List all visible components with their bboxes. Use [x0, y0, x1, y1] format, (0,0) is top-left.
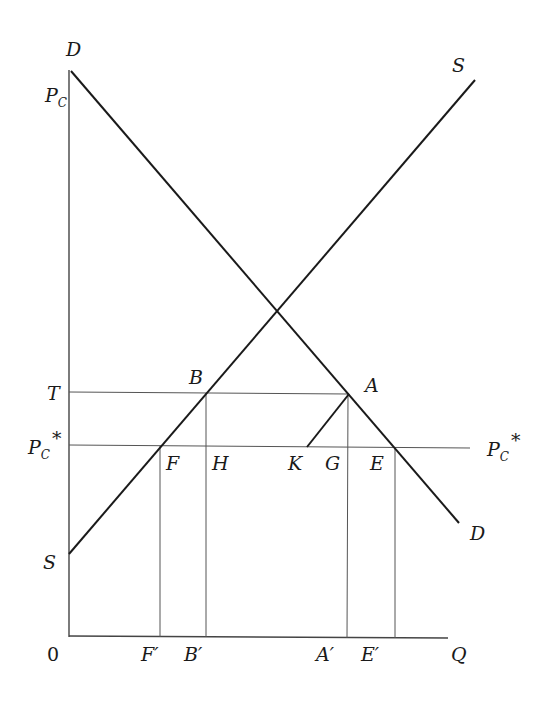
pc-star-price-line: [69, 445, 470, 448]
point-f-label: F: [165, 452, 180, 474]
point-h-label: H: [211, 452, 229, 474]
q-axis-label: Q: [451, 643, 467, 665]
point-e-label: E: [369, 452, 384, 474]
pc-label: PC: [44, 84, 67, 110]
supply-label-top: S: [452, 54, 465, 76]
supply-label-bottom: S: [43, 551, 56, 573]
t-price-line: [69, 392, 349, 394]
f-prime-label: F′: [140, 643, 159, 665]
point-g-label: G: [325, 452, 340, 474]
t-label: T: [47, 382, 61, 404]
pc-star-label-left: PC*: [27, 427, 62, 462]
a-prime-drop-line: [347, 394, 348, 638]
demand-label-top: D: [65, 38, 81, 60]
a-k-segment: [307, 394, 349, 447]
supply-curve: [69, 80, 475, 554]
pc-star-label-right: PC*: [486, 429, 521, 464]
a-prime-label: A′: [314, 643, 335, 665]
point-k-label: K: [287, 452, 304, 474]
supply-demand-diagram: D S D S PC T PC* 0 PC* B A F H K G E F′ …: [0, 0, 548, 706]
b-prime-label: B′: [183, 643, 203, 665]
x-axis: [69, 636, 448, 638]
e-prime-label: E′: [360, 643, 380, 665]
demand-label-bottom: D: [469, 522, 485, 544]
demand-curve: [71, 71, 459, 523]
point-b-label: B: [188, 366, 203, 388]
origin-label: 0: [47, 643, 59, 665]
point-a-label: A: [363, 374, 379, 396]
